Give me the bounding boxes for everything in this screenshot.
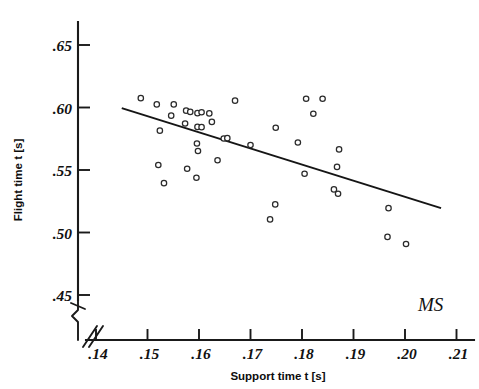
data-point [331,187,336,192]
data-point [267,217,272,222]
x-axis-tick-labels: .14.15.16.17.18.19.20.21 [88,345,468,362]
data-point [336,147,341,152]
y-axis-ticks [78,45,90,295]
data-point [209,119,214,124]
data-point [273,202,278,207]
data-point [171,102,176,107]
regression-trend-line [122,108,441,208]
data-point [311,111,316,116]
x-tick-label-20: .20 [397,345,417,362]
y-axis-tick-labels: .65.60.55.50.45 [53,37,73,304]
data-point [273,125,278,130]
data-point [385,234,390,239]
data-point [194,175,199,180]
data-point [225,135,230,140]
x-tick-label-14: .14 [88,345,108,362]
data-point [199,124,204,129]
plot-canvas: .65.60.55.50.45 .14.15.16.17.18.19.20.21… [0,0,479,389]
data-point [403,241,408,246]
data-point [303,96,308,101]
x-axis-ticks [96,329,457,340]
data-point [194,141,199,146]
data-point [302,171,307,176]
data-point [182,121,187,126]
data-point [161,180,166,185]
data-point [320,96,325,101]
data-point [154,102,159,107]
scatter-plot-figure: .65.60.55.50.45 .14.15.16.17.18.19.20.21… [0,0,479,389]
y-tick-label-50: .50 [53,225,73,242]
data-point [168,113,173,118]
y-tick-label-65: .65 [53,37,73,54]
x-tick-label-17: .17 [243,345,264,362]
data-point [232,98,237,103]
x-tick-label-19: .19 [346,345,366,362]
x-tick-label-18: .18 [294,345,314,362]
data-point [334,164,339,169]
data-point [156,162,161,167]
data-point [295,140,300,145]
data-point [248,142,253,147]
data-points-group [138,95,409,246]
data-point [207,111,212,116]
data-point [184,166,189,171]
x-tick-label-15: .15 [140,345,160,362]
data-point [138,95,143,100]
data-point [335,191,340,196]
data-point [188,109,193,114]
x-axis-title: Support time t [s] [230,370,325,382]
data-point [195,148,200,153]
y-tick-label-45: .45 [53,287,73,304]
y-tick-label-60: .60 [53,100,73,117]
y-tick-label-55: .55 [53,162,73,179]
chart-annotation-ms: MS [417,294,444,315]
data-point [157,128,162,133]
y-axis-title: Flight time t [s] [12,139,24,222]
x-tick-label-21: .21 [449,345,468,362]
x-tick-label-16: .16 [191,345,211,362]
data-point [215,158,220,163]
data-point [199,110,204,115]
data-point [386,205,391,210]
